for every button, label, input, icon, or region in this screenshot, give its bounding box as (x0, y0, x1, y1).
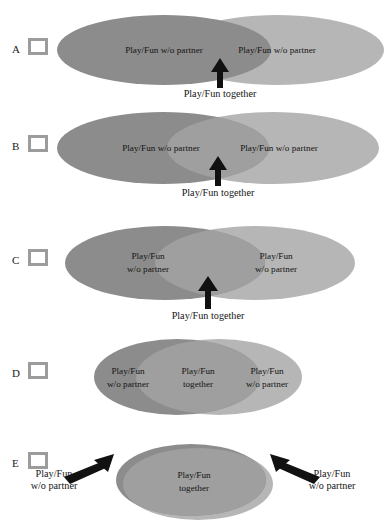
left-ellipse-label-line1-c: Play/Fun (131, 251, 165, 261)
left-ellipse-label-b: Play/Fun w/o partner (122, 143, 200, 153)
center-label-line2-d: together (183, 379, 213, 389)
venn-diagram-figure: A Play/Fun w/o partner Play/Fun w/o part… (0, 0, 384, 525)
left-caption-line1-e: Play/Fun (8, 468, 100, 480)
panel-letter-d: D (12, 368, 20, 379)
overlap-caption-c: Play/Fun together (148, 310, 268, 322)
venn-b: Play/Fun w/o partner Play/Fun w/o partne… (55, 109, 384, 187)
venn-d: Play/Fun w/o partner Play/Fun together P… (93, 336, 303, 422)
panel-letter-a: A (12, 44, 20, 55)
right-caption-line1-e: Play/Fun (286, 468, 378, 480)
left-ellipse-label-line2-c: w/o partner (127, 264, 169, 274)
right-ellipse-label-line1-d: Play/Fun (250, 366, 284, 376)
right-ellipse-label-line2-d: w/o partner (246, 379, 288, 389)
panel-letter-b: B (12, 141, 19, 152)
right-caption-e: Play/Fun w/o partner (286, 468, 378, 492)
left-ellipse-label-line1-d: Play/Fun (111, 366, 145, 376)
center-label-line1-e: Play/Fun (177, 470, 211, 480)
right-ellipse-label-a: Play/Fun w/o partner (238, 45, 316, 55)
venn-a: Play/Fun w/o partner Play/Fun w/o partne… (55, 12, 384, 88)
right-caption-line2-e: w/o partner (286, 480, 378, 492)
right-ellipse-label-line1-c: Play/Fun (259, 251, 293, 261)
left-caption-line2-e: w/o partner (8, 480, 100, 492)
left-caption-e: Play/Fun w/o partner (8, 468, 100, 492)
panel-e: E Play/Fun together (0, 440, 384, 525)
panel-b: B Play/Fun w/o partner Play/Fun w/o part… (0, 105, 384, 210)
panel-c: C Play/Fun w/o partner Play/Fun w/o part… (0, 222, 384, 332)
overlap-caption-a: Play/Fun together (160, 88, 280, 100)
right-ellipse-label-b: Play/Fun w/o partner (240, 143, 318, 153)
panel-letter-c: C (12, 255, 19, 266)
panel-d: D Play/Fun w/o partner Play/Fun together… (0, 336, 384, 431)
checkbox-a[interactable] (28, 38, 48, 55)
checkbox-d[interactable] (28, 362, 48, 379)
venn-e: Play/Fun together (112, 442, 277, 524)
center-label-line1-d: Play/Fun (181, 366, 215, 376)
overlap-caption-b: Play/Fun together (158, 187, 278, 199)
venn-c: Play/Fun w/o partner Play/Fun w/o partne… (60, 224, 380, 306)
left-ellipse-label-a: Play/Fun w/o partner (125, 45, 203, 55)
checkbox-e[interactable] (28, 452, 48, 469)
checkbox-c[interactable] (28, 249, 48, 266)
left-ellipse-label-line2-d: w/o partner (107, 379, 149, 389)
center-label-line2-e: together (179, 483, 209, 493)
checkbox-b[interactable] (28, 135, 48, 152)
panel-a: A Play/Fun w/o partner Play/Fun w/o part… (0, 10, 384, 105)
right-ellipse-label-line2-c: w/o partner (255, 264, 297, 274)
